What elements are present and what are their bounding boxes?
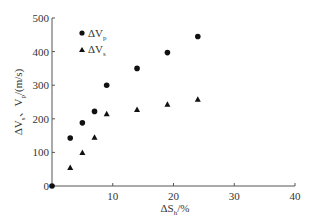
svg-text:ΔSh/%: ΔSh/% <box>161 202 190 217</box>
vp-point <box>80 120 86 126</box>
vp-point <box>134 66 140 72</box>
vp-point <box>165 50 171 56</box>
scatter-chart: 0100200300400500 10203040 ΔVs、Vp/(m/s) Δ… <box>0 0 317 224</box>
y-tick-label: 100 <box>33 146 50 158</box>
legend-triangle-icon <box>79 47 85 52</box>
x-tick-label: 30 <box>229 190 241 202</box>
vp-point <box>92 109 98 115</box>
svg-text:ΔVs、Vp/(m/s): ΔVs、Vp/(m/s) <box>12 68 27 135</box>
vp-point <box>67 135 73 141</box>
y-tick-label: 400 <box>33 46 50 58</box>
vs-point <box>195 96 201 102</box>
vs-point <box>104 111 110 117</box>
y-axis-label: ΔVs、Vp/(m/s) <box>12 68 27 135</box>
legend-label-vp: ΔVp <box>88 27 107 42</box>
vp-point <box>49 183 55 189</box>
y-tick-label: 0 <box>44 180 50 192</box>
axes: 0100200300400500 10203040 <box>33 12 302 202</box>
legend-label-vs: ΔVs <box>88 43 106 58</box>
vp-point <box>195 34 201 40</box>
legend-circle-icon <box>79 30 84 35</box>
data-points <box>49 34 201 189</box>
vs-point <box>79 149 85 155</box>
y-tick-label: 300 <box>33 79 50 91</box>
vs-point <box>164 101 170 107</box>
vs-point <box>67 165 73 171</box>
vs-point <box>92 134 98 140</box>
vp-point <box>104 82 110 88</box>
y-tick-label: 500 <box>33 12 50 24</box>
legend: ΔVp ΔVs <box>79 27 107 58</box>
x-tick-label: 10 <box>107 190 119 202</box>
vs-point <box>134 106 140 112</box>
x-tick-label: 40 <box>290 190 302 202</box>
x-tick-label: 20 <box>168 190 180 202</box>
y-tick-label: 200 <box>33 113 50 125</box>
x-axis-label: ΔSh/% <box>161 202 190 217</box>
